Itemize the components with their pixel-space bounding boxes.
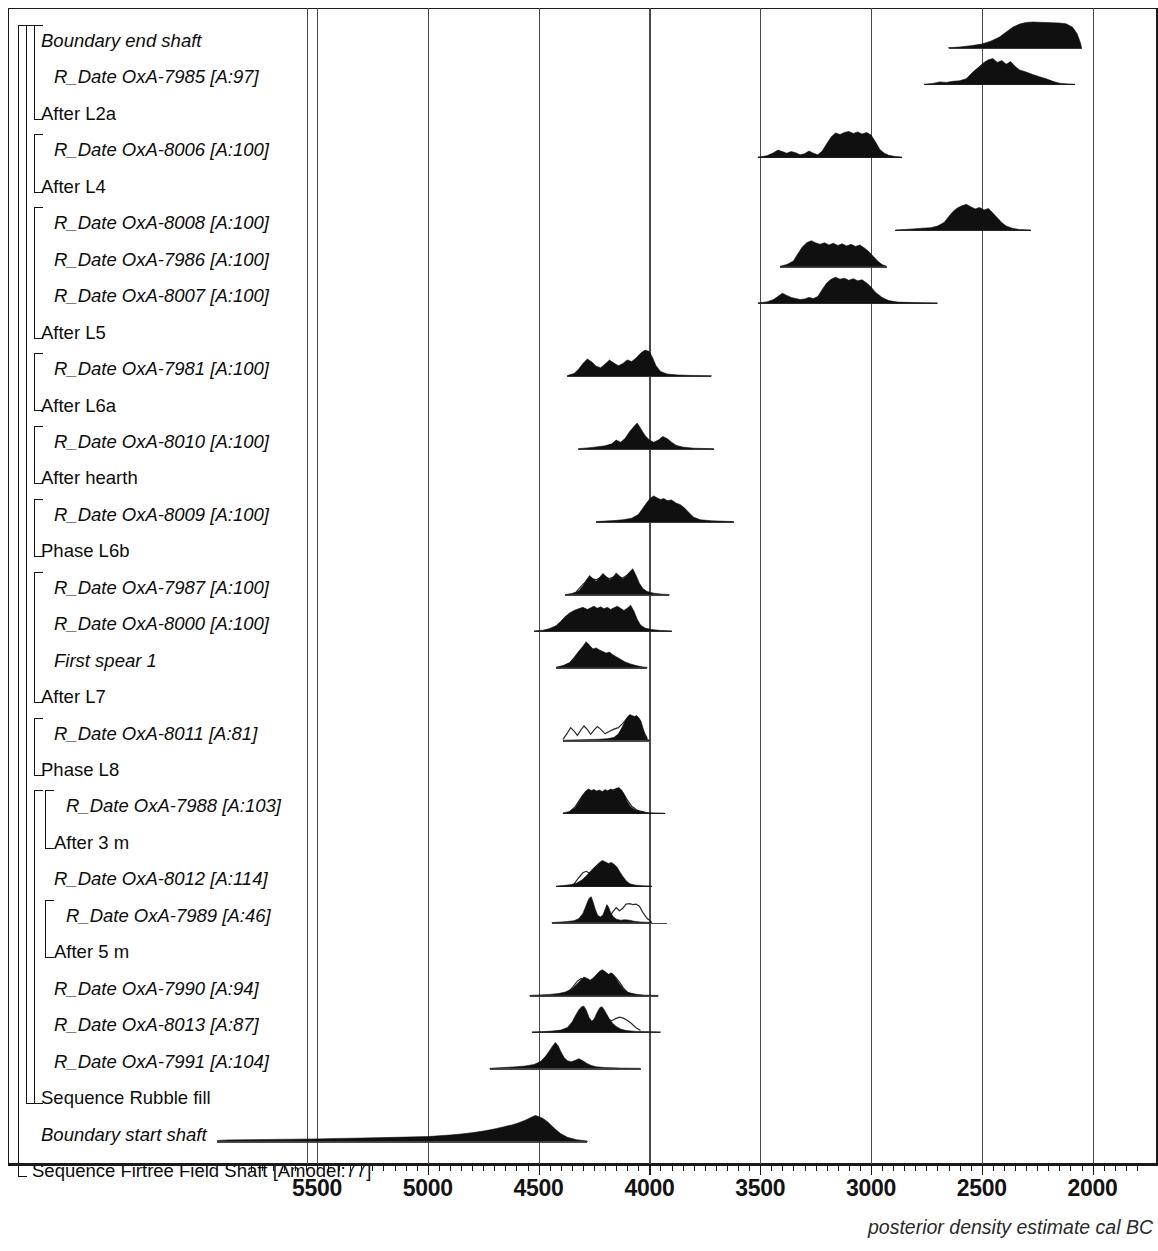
axis-tick-label: 2500 <box>957 1175 1007 1202</box>
range-hairline <box>532 1032 661 1033</box>
tick-minor <box>295 1165 296 1171</box>
tick-minor <box>838 1165 839 1171</box>
tick-minor <box>284 1165 285 1171</box>
row-label: R_Date OxA-7988 [A:103] <box>66 797 281 816</box>
row-label: Boundary start shaft <box>41 1126 207 1145</box>
tick-minor <box>594 1165 595 1171</box>
bracket-group <box>34 572 43 703</box>
range-hairline <box>563 813 665 814</box>
range-hairline <box>552 923 667 924</box>
oxcal-plot-figure: Boundary end shaftR_Date OxA-7985 [A:97]… <box>0 0 1158 1251</box>
axis-tick-label: 5000 <box>403 1175 453 1202</box>
tick-minor <box>395 1165 396 1171</box>
axis-tick-label: 5500 <box>292 1175 342 1202</box>
tick-minor <box>528 1165 529 1171</box>
tick-minor <box>660 1165 661 1171</box>
tick-minor <box>893 1165 894 1171</box>
tick-minor <box>782 1165 783 1171</box>
tick-minor <box>1015 1165 1016 1171</box>
tick-minor <box>516 1165 517 1171</box>
tick-minor <box>472 1165 473 1171</box>
gridline-3500 <box>760 8 761 1172</box>
range-hairline <box>565 595 669 596</box>
row-label: R_Date OxA-8012 [A:114] <box>54 870 268 889</box>
row-label: Phase L8 <box>41 761 119 780</box>
tick-minor <box>1004 1165 1005 1171</box>
tick-minor <box>627 1165 628 1171</box>
range-hairline <box>924 84 1075 85</box>
tick-minor <box>949 1165 950 1171</box>
row-label: Sequence Rubble fill <box>41 1089 211 1108</box>
tick-minor <box>705 1165 706 1171</box>
tick-minor <box>361 1165 362 1171</box>
gridline-5500 <box>317 8 318 1172</box>
tick-minor <box>672 1165 673 1171</box>
tick-major-2000 <box>1093 1165 1094 1175</box>
tick-minor <box>417 1165 418 1171</box>
tick-major-2500 <box>982 1165 983 1175</box>
gridline-3000 <box>871 8 872 1172</box>
row-label: R_Date OxA-8011 [A:81] <box>54 725 257 744</box>
tick-minor <box>550 1165 551 1171</box>
tick-minor <box>1070 1165 1071 1171</box>
tick-minor <box>461 1165 462 1171</box>
range-hairline <box>217 1142 587 1143</box>
tick-major-5000 <box>428 1165 429 1175</box>
tick-minor <box>494 1165 495 1171</box>
row-label: After 3 m <box>54 834 129 853</box>
tick-major-3000 <box>871 1165 872 1175</box>
bracket-group <box>34 207 43 338</box>
range-hairline <box>556 668 647 669</box>
gridline-2500 <box>982 8 983 1172</box>
range-hairline <box>534 631 671 632</box>
row-label: Phase L6b <box>41 542 129 561</box>
row-label: R_Date OxA-8000 [A:100] <box>54 615 269 634</box>
x-axis-caption: posterior density estimate cal BC <box>868 1216 1153 1239</box>
tick-minor <box>727 1165 728 1171</box>
tick-minor <box>561 1165 562 1171</box>
bracket-after-5m-group <box>45 900 54 958</box>
gridline-4500 <box>539 8 540 1172</box>
range-hairline <box>556 886 651 887</box>
row-label: After L6a <box>41 397 116 416</box>
range-hairline <box>578 449 713 450</box>
range-hairline <box>780 267 886 268</box>
tick-minor <box>1059 1165 1060 1171</box>
axis-tick-label: 4000 <box>624 1175 674 1202</box>
tick-minor <box>937 1165 938 1171</box>
tick-minor <box>771 1165 772 1171</box>
tick-major-4000 <box>649 1165 650 1175</box>
tick-minor <box>1126 1165 1127 1171</box>
gridline-4000 <box>649 8 650 1172</box>
row-label: R_Date OxA-7987 [A:100] <box>54 579 269 598</box>
tick-minor <box>505 1165 506 1171</box>
row-label: After hearth <box>41 469 138 488</box>
range-hairline <box>596 522 733 523</box>
tick-major-5500 <box>317 1165 318 1175</box>
row-label: R_Date OxA-7990 [A:94] <box>54 980 259 999</box>
tick-minor <box>372 1165 373 1171</box>
tick-minor <box>450 1165 451 1171</box>
row-label: First spear 1 <box>54 652 157 671</box>
tick-minor <box>262 1165 263 1171</box>
row-label: R_Date OxA-7991 [A:104] <box>54 1053 269 1072</box>
tick-minor <box>849 1165 850 1171</box>
tick-minor <box>1048 1165 1049 1171</box>
bracket-sequence-rubble-fill <box>26 25 34 1104</box>
row-label: R_Date OxA-8010 [A:100] <box>54 433 269 452</box>
tick-major-3500 <box>760 1165 761 1175</box>
tick-minor <box>915 1165 916 1171</box>
axis-tick-label: 3000 <box>846 1175 896 1202</box>
tick-minor <box>971 1165 972 1171</box>
tick-minor <box>793 1165 794 1171</box>
tick-minor <box>328 1165 329 1171</box>
range-hairline <box>567 376 711 377</box>
range-hairline <box>758 157 902 158</box>
tick-minor <box>993 1165 994 1171</box>
tick-minor <box>749 1165 750 1171</box>
row-label: R_Date OxA-8013 [A:87] <box>54 1016 259 1035</box>
plot-frame-right-edge <box>1156 8 1158 1164</box>
tick-minor <box>572 1165 573 1171</box>
tick-minor <box>1037 1165 1038 1171</box>
label-column-divider <box>307 8 308 1164</box>
